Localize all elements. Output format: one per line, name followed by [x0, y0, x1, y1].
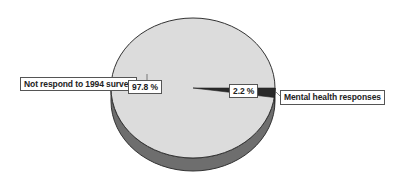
category-label-not-respond: Not respond to 1994 survey [20, 77, 137, 91]
value-label-mental-health: 2.2 % [229, 84, 258, 98]
category-label-mental-health: Mental health responses [280, 90, 385, 105]
value-label-not-respond: 97.8 % [128, 80, 162, 94]
